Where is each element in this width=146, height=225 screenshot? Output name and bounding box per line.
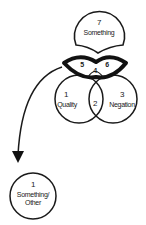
- bottom-label-line1: Something/: [17, 191, 49, 198]
- bottom-label-line2: Other: [25, 199, 41, 206]
- overlap-number: 2: [93, 100, 97, 108]
- flow-arrow: [18, 67, 62, 155]
- negation-number: 3: [120, 91, 124, 99]
- top-label: Something: [84, 29, 115, 36]
- arrowhead-icon: [12, 151, 24, 163]
- quality-label: Quality: [57, 101, 77, 108]
- lens-left-number: 5: [80, 61, 84, 68]
- negation-label: Negation: [109, 101, 135, 108]
- quality-number: 1: [64, 91, 68, 99]
- bottom-number: 1: [31, 181, 35, 189]
- lens-right-number: 6: [105, 61, 109, 68]
- top-number: 7: [97, 19, 101, 27]
- lens-center-number: 4: [93, 67, 97, 74]
